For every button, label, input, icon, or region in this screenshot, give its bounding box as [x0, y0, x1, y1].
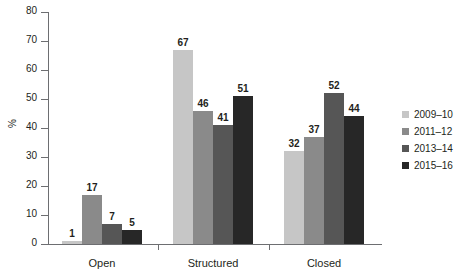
y-tick: 30 [41, 157, 48, 158]
legend-item[interactable]: 2015–16 [402, 157, 453, 174]
x-axis-line [48, 244, 382, 245]
bar: 44 [344, 116, 364, 244]
bar-value-label: 5 [129, 217, 135, 228]
y-tick: 20 [41, 186, 48, 187]
bar: 5 [122, 230, 142, 245]
bar: 51 [233, 96, 253, 244]
y-tick-label: 80 [26, 5, 37, 16]
plot-area: 01020304050607080 117756746415132375244 … [48, 12, 388, 244]
y-tick-label: 10 [26, 208, 37, 219]
bar: 67 [173, 50, 193, 244]
bar-value-label: 37 [308, 124, 319, 135]
y-tick: 70 [41, 41, 48, 42]
bar: 1 [62, 241, 82, 244]
bar-value-label: 7 [109, 211, 115, 222]
y-axis-line [48, 12, 49, 244]
bar: 7 [102, 224, 122, 244]
legend-swatch-icon [402, 145, 409, 152]
legend-item[interactable]: 2009–10 [402, 106, 453, 123]
y-tick: 60 [41, 70, 48, 71]
y-axis-label: % [7, 114, 18, 134]
legend-label: 2011–12 [414, 126, 452, 137]
y-tick-label: 60 [26, 63, 37, 74]
bar-value-label: 44 [348, 103, 359, 114]
y-tick: 40 [41, 128, 48, 129]
legend-item[interactable]: 2011–12 [402, 123, 453, 140]
y-tick-label: 20 [26, 179, 37, 190]
y-tick-label: 0 [31, 237, 37, 248]
bar-value-label: 41 [217, 112, 228, 123]
bar-value-label: 17 [86, 182, 97, 193]
y-tick: 10 [41, 215, 48, 216]
x-tick [158, 244, 159, 250]
y-tick: 50 [41, 99, 48, 100]
bar: 37 [304, 137, 324, 244]
bar: 41 [213, 125, 233, 244]
x-tick [269, 244, 270, 250]
legend-label: 2009–10 [414, 109, 453, 120]
bar-value-label: 1 [69, 228, 75, 239]
y-tick-label: 40 [26, 121, 37, 132]
bar-value-label: 46 [197, 98, 208, 109]
bar-chart: % 01020304050607080 11775674641513237524… [0, 0, 469, 277]
chart-legend: 2009–102011–122013–142015–16 [402, 106, 453, 174]
bar: 46 [193, 111, 213, 244]
y-tick-label: 30 [26, 150, 37, 161]
legend-label: 2013–14 [414, 143, 453, 154]
bar: 32 [284, 151, 304, 244]
bar: 52 [324, 93, 344, 244]
y-tick-label: 70 [26, 34, 37, 45]
y-tick: 0 [41, 244, 48, 245]
legend-swatch-icon [402, 162, 409, 169]
bar: 17 [82, 195, 102, 244]
legend-swatch-icon [402, 128, 409, 135]
bar-value-label: 67 [177, 37, 188, 48]
bar-value-label: 52 [328, 80, 339, 91]
category-label: Structured [188, 257, 239, 269]
bar-value-label: 32 [288, 138, 299, 149]
legend-swatch-icon [402, 111, 409, 118]
y-tick-label: 50 [26, 92, 37, 103]
legend-item[interactable]: 2013–14 [402, 140, 453, 157]
bar-value-label: 51 [237, 83, 248, 94]
category-label: Closed [307, 257, 341, 269]
legend-label: 2015–16 [414, 160, 453, 171]
category-label: Open [89, 257, 116, 269]
y-tick: 80 [41, 12, 48, 13]
